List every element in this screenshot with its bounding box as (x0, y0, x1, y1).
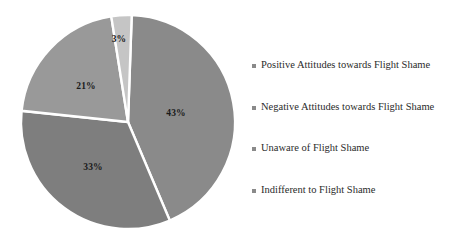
pie-chart-figure: 43%33%21%3% Positive Attitudes towards F… (0, 0, 459, 242)
legend-square-marker-icon (252, 64, 256, 68)
legend-item[interactable]: Unaware of Flight Shame (252, 141, 369, 155)
pie-slice[interactable] (22, 16, 128, 122)
pie-slice-label: 33% (83, 162, 103, 172)
legend-item-label: Negative Attitudes towards Flight Shame (261, 101, 434, 113)
legend-item[interactable]: Indifferent to Flight Shame (252, 183, 375, 197)
chart-legend: Positive Attitudes towards Flight ShameN… (252, 46, 457, 206)
legend-item[interactable]: Positive Attitudes towards Flight Shame (252, 58, 430, 72)
pie-slice-label: 21% (76, 81, 96, 91)
pie-slice-label: 3% (112, 34, 127, 44)
pie-slice-label: 43% (166, 108, 186, 118)
legend-item-label: Positive Attitudes towards Flight Shame (261, 59, 430, 71)
legend-item-label: Unaware of Flight Shame (261, 142, 369, 154)
legend-item[interactable]: Negative Attitudes towards Flight Shame (252, 100, 434, 114)
pie-plot-area: 43%33%21%3% (0, 0, 250, 242)
legend-square-marker-icon (252, 147, 256, 151)
legend-square-marker-icon (252, 106, 256, 110)
legend-square-marker-icon (252, 189, 256, 193)
legend-item-label: Indifferent to Flight Shame (261, 184, 375, 196)
